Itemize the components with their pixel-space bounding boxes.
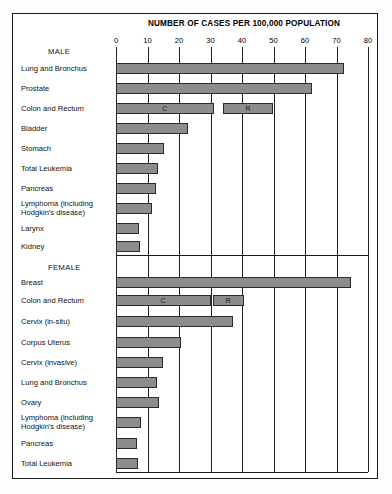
gridline: [368, 54, 369, 472]
x-tick-mark: [148, 47, 149, 54]
x-tick-mark: [211, 47, 212, 54]
x-tick-label: 0: [114, 36, 118, 45]
x-tick-mark: [368, 47, 369, 54]
segment-letter-r: R: [226, 297, 231, 304]
x-tick-label: 50: [269, 36, 277, 45]
bar-bladder: [116, 123, 188, 134]
x-tick-mark: [179, 47, 180, 54]
x-tick-label: 60: [301, 36, 309, 45]
bar-pancreas: [116, 438, 137, 449]
x-tick-mark: [116, 47, 117, 54]
bar-lung-and-bronchus: [116, 377, 157, 388]
bar-prostate: [116, 83, 312, 94]
row-label-prostate: Prostate: [21, 84, 49, 94]
gridline: [274, 54, 275, 472]
row-label-kidney: Kidney: [21, 242, 44, 252]
bar-cervix-in-situ: [116, 316, 233, 327]
row-label-stomach: Stomach: [21, 144, 51, 154]
x-tick-label: 30: [206, 36, 214, 45]
gridline: [211, 54, 212, 472]
group-header-male: MALE: [48, 47, 70, 56]
segment-letter-c: C: [162, 105, 167, 112]
row-label-lymphoma-including-line2: Hodgkin's disease): [21, 422, 85, 432]
bar-ovary: [116, 397, 159, 408]
row-label-bladder: Bladder: [21, 124, 47, 134]
x-tick-mark: [305, 47, 306, 54]
section-separator: [116, 472, 368, 473]
gridline: [148, 54, 149, 472]
bar-pancreas: [116, 183, 156, 194]
gridline: [242, 54, 243, 472]
row-label-total-leukemia: Total Leukemia: [21, 164, 72, 174]
bar-total-leukemia: [116, 163, 158, 174]
bar-colon-and-rectum-rectum: R: [213, 295, 244, 306]
bar-colon-and-rectum-rectum: R: [223, 103, 273, 114]
x-tick-mark: [337, 47, 338, 54]
section-separator: [116, 255, 368, 256]
segment-letter-c: C: [161, 297, 166, 304]
gridline: [305, 54, 306, 472]
gridline: [116, 54, 117, 472]
row-label-corpus-uterus: Corpus Uterus: [21, 338, 70, 348]
bar-breast: [116, 277, 351, 288]
x-tick-label: 40: [238, 36, 246, 45]
group-header-female: FEMALE: [48, 263, 81, 272]
bar-lymphoma-including: [116, 203, 152, 214]
row-label-ovary: Ovary: [21, 398, 41, 408]
bar-cervix-invasive: [116, 357, 163, 368]
segment-letter-r: R: [246, 105, 251, 112]
row-label-cervix-invasive: Cervix (invasive): [21, 358, 77, 368]
x-tick-label: 20: [175, 36, 183, 45]
row-label-breast: Breast: [21, 278, 43, 288]
x-tick-mark: [242, 47, 243, 54]
bar-colon-and-rectum-colon: C: [116, 103, 214, 114]
row-label-colon-and-rectum: Colon and Rectum: [21, 296, 84, 306]
row-label-cervix-in-situ: Cervix (in-situ): [21, 317, 70, 327]
bar-lymphoma-including: [116, 417, 141, 428]
gridline: [337, 54, 338, 472]
bar-total-leukemia: [116, 458, 138, 469]
gridline: [179, 54, 180, 472]
row-label-lung-and-bronchus: Lung and Bronchus: [21, 64, 87, 74]
chart-page: NUMBER OF CASES PER 100,000 POPULATION 0…: [0, 0, 392, 494]
bar-larynx: [116, 223, 139, 234]
x-tick-mark: [274, 47, 275, 54]
x-tick-label: 70: [332, 36, 340, 45]
chart-title: NUMBER OF CASES PER 100,000 POPULATION: [112, 19, 376, 28]
row-label-colon-and-rectum: Colon and Rectum: [21, 104, 84, 114]
row-label-lung-and-bronchus: Lung and Bronchus: [21, 378, 87, 388]
x-tick-label: 80: [364, 36, 372, 45]
bar-lung-and-bronchus: [116, 63, 344, 74]
row-label-pancreas: Pancreas: [21, 184, 53, 194]
bar-corpus-uterus: [116, 337, 181, 348]
row-label-lymphoma-including-line2: Hodgkin's disease): [21, 208, 85, 218]
row-label-pancreas: Pancreas: [21, 439, 53, 449]
row-label-total-leukemia: Total Leukemia: [21, 459, 72, 469]
bar-stomach: [116, 143, 164, 154]
bar-kidney: [116, 241, 140, 252]
row-label-larynx: Larynx: [21, 224, 44, 234]
bar-colon-and-rectum-colon: C: [116, 295, 211, 306]
x-tick-label: 10: [143, 36, 151, 45]
